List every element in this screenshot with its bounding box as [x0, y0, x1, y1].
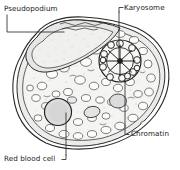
red-blood-cell-inner: [48, 102, 68, 122]
inclusion-body-small: [68, 97, 77, 103]
label-chromatin: Chromatin: [131, 130, 169, 138]
red-blood-cell-structure: [45, 99, 72, 126]
label-pseudopodium: Pseudopodium: [4, 5, 58, 13]
amoeba-diagram: Pseudopodium Karyosome Chromatin Red blo…: [0, 0, 180, 170]
amoeba-illustration: [0, 0, 180, 170]
label-karyosome: Karyosome: [124, 4, 165, 12]
leader-red-blood-cell: [62, 155, 66, 160]
leader-karyosome: [119, 8, 123, 13]
karyosome-body: [117, 58, 122, 63]
inclusion-body-upper: [110, 94, 127, 108]
label-red-blood-cell: Red blood cell: [4, 155, 55, 163]
nucleus: [99, 40, 141, 82]
